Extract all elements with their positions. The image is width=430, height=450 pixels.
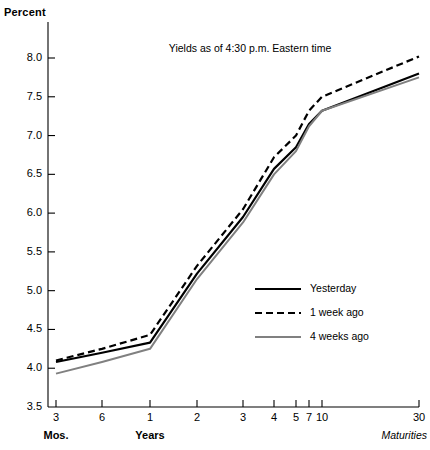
- y-tick-label: 4.0: [16, 361, 42, 373]
- y-tick-label: 3.5: [16, 400, 42, 412]
- legend-label: 4 weeks ago: [310, 330, 369, 342]
- data-series: [56, 56, 419, 373]
- x-tick-label: 1: [147, 411, 153, 423]
- yield-curve-chart: Percent Yields as of 4:30 p.m. Eastern t…: [0, 0, 430, 450]
- series-line: [56, 74, 419, 363]
- chart-canvas: [0, 0, 430, 450]
- x-tick-label: 30: [413, 411, 425, 423]
- x-group-label-years: Years: [135, 429, 164, 441]
- x-axis-title: Maturities: [381, 429, 427, 441]
- y-tick-label: 7.0: [16, 129, 42, 141]
- y-tick-label: 5.5: [16, 245, 42, 257]
- x-tick-label: 3: [53, 411, 59, 423]
- y-tick-label: 6.5: [16, 167, 42, 179]
- y-tick-label: 4.5: [16, 322, 42, 334]
- y-tick-label: 5.0: [16, 284, 42, 296]
- legend-swatches: [255, 289, 301, 337]
- legend-label: 1 week ago: [310, 306, 364, 318]
- x-tick-label: 7: [306, 411, 312, 423]
- x-tick-label: 2: [194, 411, 200, 423]
- y-tick-label: 6.0: [16, 206, 42, 218]
- x-tick-label: 3: [240, 411, 246, 423]
- legend-label: Yesterday: [310, 282, 356, 294]
- x-group-label-months: Mos.: [43, 429, 68, 441]
- y-tick-label: 7.5: [16, 90, 42, 102]
- x-tick-label: 5: [293, 411, 299, 423]
- x-tick-label: 4: [271, 411, 277, 423]
- series-line: [56, 56, 419, 360]
- x-tick-label: 10: [316, 411, 328, 423]
- y-tick-label: 8.0: [16, 51, 42, 63]
- x-tick-label: 6: [99, 411, 105, 423]
